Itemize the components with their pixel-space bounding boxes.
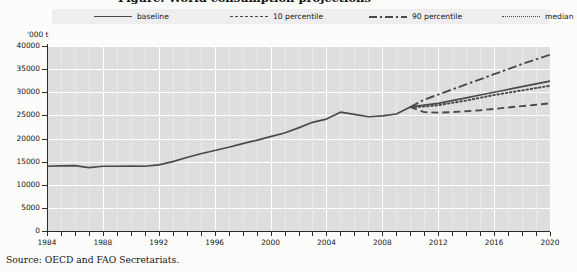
y-axis-tick-label: 35000 [2, 65, 40, 72]
x-axis-tick [480, 232, 481, 236]
x-axis-tick [61, 232, 62, 236]
x-axis-tick [131, 232, 132, 236]
x-axis-tick-label: 1996 [205, 239, 224, 246]
x-axis-tick-label: 2012 [429, 239, 448, 246]
x-axis-tick [410, 232, 411, 236]
x-axis-tick-label: 2016 [485, 239, 504, 246]
y-axis-tick-label: 30000 [2, 88, 40, 95]
legend-item-90-percentile: 90 percentile [369, 9, 462, 24]
x-axis-tick [326, 232, 327, 236]
x-axis-tick [159, 232, 160, 236]
legend-swatch-dashdot-icon [369, 12, 407, 21]
x-axis-tick [424, 232, 425, 236]
x-axis-tick [117, 232, 118, 236]
legend-item-median: median [502, 9, 573, 24]
page-title: Figure: World consumption projections [118, 0, 371, 5]
x-axis-tick [145, 232, 146, 236]
gridline-vertical [550, 46, 551, 231]
x-axis-tick [368, 232, 369, 236]
x-axis-tick-label: 1992 [149, 239, 168, 246]
x-axis-tick-label: 1988 [93, 239, 112, 246]
x-axis-tick [215, 232, 216, 236]
plot-area [47, 46, 550, 231]
y-axis-labels: 0500010000150002000025000300003500040000 [0, 0, 40, 272]
legend-item-10-percentile: 10 percentile [230, 9, 323, 24]
y-axis-tick [42, 46, 47, 47]
y-axis-line [47, 44, 48, 233]
y-axis-tick [42, 185, 47, 186]
x-axis-tick-label: 2008 [373, 239, 392, 246]
x-axis-tick [103, 232, 104, 236]
x-axis-tick [75, 232, 76, 236]
x-axis-tick-label: 2004 [317, 239, 336, 246]
legend-label-90-percentile: 90 percentile [412, 13, 462, 21]
chart-series-layer [47, 46, 550, 231]
x-axis-tick [354, 232, 355, 236]
y-axis-tick-label: 5000 [2, 204, 40, 211]
y-axis-tick [42, 208, 47, 209]
legend-label-median: median [545, 13, 573, 21]
x-axis-tick [271, 232, 272, 236]
x-axis-tick [508, 232, 509, 236]
x-axis-tick [257, 232, 258, 236]
x-axis-tick [285, 232, 286, 236]
y-axis-tick-label: 15000 [2, 158, 40, 165]
legend-item-baseline: baseline [94, 9, 169, 24]
x-axis-tick [89, 232, 90, 236]
y-axis-tick [42, 162, 47, 163]
y-axis-tick-label: 20000 [2, 135, 40, 142]
x-axis-tick-label: 2000 [261, 239, 280, 246]
x-axis-tick [536, 232, 537, 236]
source-note: Source: OECD and FAO Secretariats. [6, 254, 179, 265]
y-axis-tick-label: 25000 [2, 111, 40, 118]
legend-swatch-dotted-icon [502, 12, 540, 21]
y-axis-tick-label: 0 [2, 227, 40, 234]
y-axis-tick [42, 92, 47, 93]
x-axis-tick [187, 232, 188, 236]
legend-label-10-percentile: 10 percentile [273, 13, 323, 21]
x-axis-tick [466, 232, 467, 236]
x-axis-tick [47, 232, 48, 236]
x-axis-tick [229, 232, 230, 236]
series-line-90-percentile [410, 55, 550, 107]
x-axis-tick [243, 232, 244, 236]
x-axis-tick [201, 232, 202, 236]
x-axis-tick [452, 232, 453, 236]
x-axis-tick [522, 232, 523, 236]
figure-title-clipped: Figure: World consumption projections [0, 0, 577, 8]
x-axis-tick [312, 232, 313, 236]
y-axis-tick-label: 40000 [2, 42, 40, 49]
legend-label-baseline: baseline [137, 13, 169, 21]
x-axis-tick [173, 232, 174, 236]
legend-swatch-dashed-icon [230, 12, 268, 21]
x-axis-tick-label: 1984 [38, 239, 57, 246]
chart-legend: baseline 10 percentile 90 percentile med… [52, 9, 550, 24]
x-axis-tick [494, 232, 495, 236]
y-axis-tick [42, 139, 47, 140]
x-axis-tick [550, 232, 551, 236]
x-axis-tick [299, 232, 300, 236]
y-axis-tick [42, 115, 47, 116]
legend-swatch-solid-icon [94, 12, 132, 21]
x-axis-tick [396, 232, 397, 236]
x-axis-tick [382, 232, 383, 236]
y-axis-tick-label: 10000 [2, 181, 40, 188]
series-line-baseline [47, 81, 550, 167]
y-axis-tick [42, 69, 47, 70]
x-axis-tick [340, 232, 341, 236]
x-axis-tick-label: 2020 [541, 239, 560, 246]
x-axis-tick [438, 232, 439, 236]
